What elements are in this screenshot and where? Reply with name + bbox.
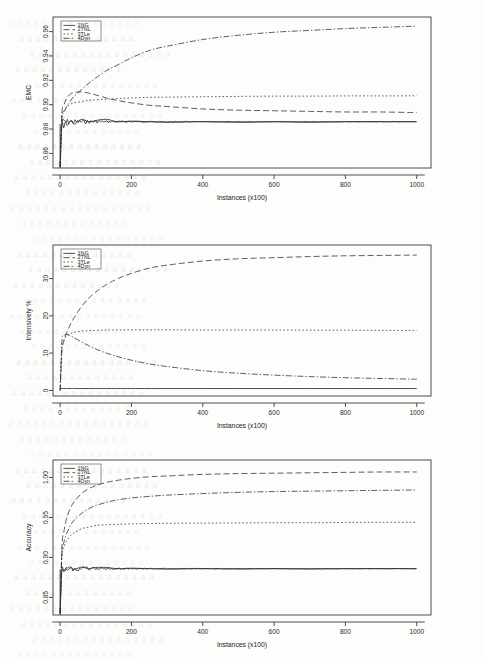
x-axis-title: Instances (x100) <box>217 422 267 430</box>
x-tick-label: 200 <box>126 181 137 188</box>
x-tick-label: 600 <box>269 409 280 416</box>
x-tick-label: 800 <box>340 628 351 635</box>
x-tick-label: 400 <box>197 409 208 416</box>
y-tick-label: 0.86 <box>42 147 49 160</box>
x-tick-label: 0 <box>58 181 62 188</box>
x-tick-label: 800 <box>340 181 351 188</box>
series-line-2TNL <box>60 472 417 613</box>
x-tick-label: 400 <box>197 181 208 188</box>
y-tick-label: 20 <box>42 312 49 320</box>
y-tick-label: 0.88 <box>42 122 49 135</box>
y-tick-label: 0.85 <box>42 591 49 604</box>
y-tick-label: 0.95 <box>42 511 49 524</box>
plot-frame <box>53 17 431 168</box>
y-tick-label: 0.96 <box>42 25 49 38</box>
x-tick-label: 200 <box>126 628 137 635</box>
x-tick-label: 400 <box>197 628 208 635</box>
chart-intensively: 0102030Intensively %02004006008001000Ins… <box>0 228 485 443</box>
x-tick-label: 600 <box>269 181 280 188</box>
x-tick-label: 0 <box>58 409 62 416</box>
chart-accuracy: 0.850.900.951.00Accuracy0200400600800100… <box>0 443 485 662</box>
series-line-4Dyn <box>60 490 417 613</box>
x-tick-label: 1000 <box>409 628 424 635</box>
y-tick-label: 30 <box>42 275 49 283</box>
series-line-3TLe <box>60 330 417 391</box>
series-line-1NG <box>60 567 417 613</box>
y-tick-label: 10 <box>42 349 49 357</box>
chart-panel-emc: 0.860.880.900.920.940.96EMC0200400600800… <box>0 0 485 215</box>
y-tick-label: 1.00 <box>42 471 49 484</box>
legend-label-4Dyn: 4Dyn <box>78 478 91 484</box>
series-line-3TLe <box>60 96 417 167</box>
series-line-1NG <box>60 119 417 167</box>
y-tick-label: 0 <box>42 388 49 392</box>
x-tick-label: 600 <box>269 628 280 635</box>
y-tick-label: 0.92 <box>42 74 49 87</box>
y-tick-label: 0.90 <box>42 551 49 564</box>
x-tick-label: 1000 <box>409 409 424 416</box>
bleed-text-line: a a a a a a a a a a a a a <box>21 216 127 228</box>
series-line-noise-1NG <box>61 119 416 123</box>
series-line-3TLe <box>60 522 417 613</box>
series-line-2TNL <box>60 92 417 167</box>
x-tick-label: 800 <box>340 409 351 416</box>
y-tick-label: 0.90 <box>42 98 49 111</box>
y-axis-title: EMC <box>25 85 32 100</box>
y-axis-title: Accuracy <box>25 523 33 552</box>
x-tick-label: 200 <box>126 409 137 416</box>
x-axis-title: Instances (x100) <box>217 194 267 202</box>
legend-label-4Dyn: 4Dyn <box>78 35 91 41</box>
plot-frame <box>53 460 431 615</box>
series-line-2TNL <box>60 255 417 390</box>
series-line-4Dyn <box>60 334 417 390</box>
y-tick-label: 0.94 <box>42 49 49 62</box>
chart-panel-accuracy: 0.850.900.951.00Accuracy0200400600800100… <box>0 443 485 662</box>
x-tick-label: 0 <box>58 628 62 635</box>
chart-panel-intensively: 0102030Intensively %02004006008001000Ins… <box>0 228 485 443</box>
chart-emc: 0.860.880.900.920.940.96EMC0200400600800… <box>0 0 485 215</box>
x-tick-label: 1000 <box>409 181 424 188</box>
y-axis-title: Intensively % <box>25 300 33 340</box>
x-axis-title: Instances (x100) <box>217 641 267 649</box>
legend-label-4Dyn: 4Dyn <box>78 263 91 269</box>
